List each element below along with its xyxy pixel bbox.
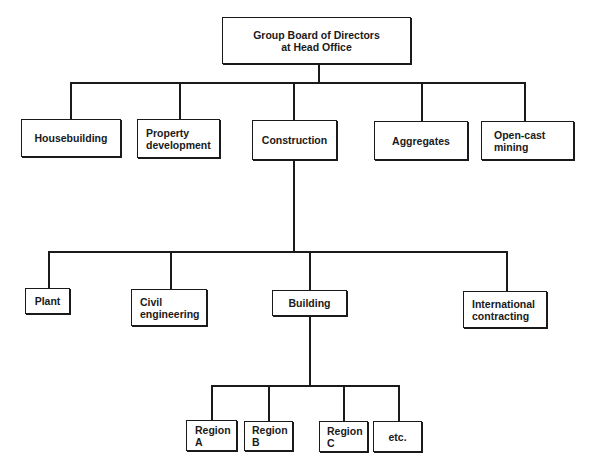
node-label: Region C [327, 425, 363, 449]
node-property-development: Property development [137, 119, 220, 158]
connector-etc [398, 385, 400, 422]
connector-construction-down [293, 160, 295, 252]
node-label: International contracting [472, 298, 535, 322]
connector-international [506, 251, 508, 292]
node-group-board: Group Board of Directors at Head Office [222, 17, 411, 64]
connector-opencast [524, 82, 526, 122]
node-label: Region A [195, 424, 231, 448]
connector-housebuilding [70, 82, 72, 120]
node-aggregates: Aggregates [374, 121, 468, 160]
node-region-c: Region C [319, 421, 368, 452]
node-plant: Plant [25, 288, 70, 314]
node-label: Construction [262, 134, 327, 146]
connector-building-down [309, 316, 311, 386]
node-building: Building [272, 290, 347, 316]
connector-aggregates [421, 82, 423, 122]
node-label: etc. [388, 431, 406, 443]
connector-plant [48, 251, 50, 289]
node-international-contracting: International contracting [463, 291, 547, 328]
node-label: Region B [252, 424, 288, 448]
connector-region-a [211, 385, 213, 421]
connector-regions-bar [211, 385, 399, 387]
node-label: Plant [35, 295, 61, 307]
node-label: Property development [146, 127, 211, 151]
connector-construction [293, 82, 295, 121]
node-label: Building [289, 297, 331, 309]
node-etc: etc. [373, 421, 422, 452]
node-open-cast-mining: Open-cast mining [481, 121, 574, 160]
node-label: Aggregates [392, 135, 450, 147]
connector-region-c [343, 385, 345, 422]
node-region-b: Region B [244, 421, 293, 451]
connector-root-down [318, 63, 320, 83]
node-housebuilding: Housebuilding [21, 119, 121, 157]
connector-property [179, 82, 181, 120]
node-label: Group Board of Directors at Head Office [253, 29, 380, 53]
node-label: Open-cast mining [494, 129, 545, 153]
node-label: Housebuilding [35, 132, 108, 144]
connector-units-bar [48, 251, 508, 253]
connector-civil [170, 251, 172, 290]
node-region-a: Region A [186, 420, 237, 451]
connector-region-b [268, 385, 270, 421]
node-label: Civil engineering [140, 296, 200, 320]
node-construction: Construction [252, 120, 337, 160]
node-civil-engineering: Civil engineering [131, 289, 207, 326]
connector-divisions-bar [70, 82, 526, 84]
connector-building [309, 251, 311, 291]
